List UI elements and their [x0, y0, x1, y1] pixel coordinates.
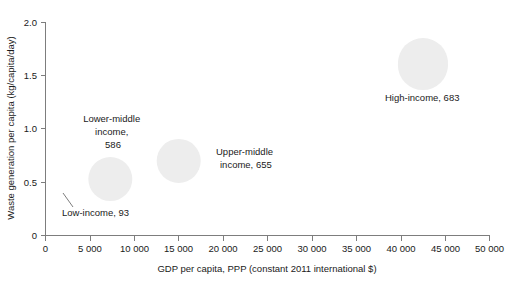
- label-high-income: High-income, 683: [385, 92, 459, 103]
- label-upper-middle-income: Upper-middle income, 655: [216, 146, 276, 170]
- x-axis-title: GDP per capita, PPP (constant 2011 inter…: [157, 263, 376, 274]
- label-high-income-line-1: High-income, 683: [385, 92, 459, 103]
- y-tick-label-1.5: 1.5: [24, 70, 37, 81]
- y-axis-ticks: [41, 23, 46, 236]
- label-lower-middle-income-line-1: Lower-middle: [83, 113, 140, 124]
- x-tick-label-25000: 25 000: [253, 243, 282, 254]
- x-tick-label-5000: 5 000: [78, 243, 102, 254]
- y-axis-tick-labels: 0 0.5 1.0 1.5 2.0: [24, 17, 37, 241]
- low-income-leader-line: [63, 193, 73, 207]
- bubble-high-income[interactable]: [398, 38, 448, 88]
- label-lower-middle-income-line-2: income,: [95, 126, 128, 137]
- label-upper-middle-income-line-2: income, 655: [220, 159, 272, 170]
- x-tick-label-15000: 15 000: [164, 243, 193, 254]
- label-low-income: Low-income, 93: [62, 207, 129, 218]
- bubble-low-income[interactable]: [88, 157, 132, 201]
- x-tick-label-0: 0: [43, 243, 48, 254]
- bubble-lower-middle-income[interactable]: [157, 139, 201, 183]
- y-tick-label-1.0: 1.0: [24, 123, 37, 134]
- y-axis: 0 0.5 1.0 1.5 2.0 Waste generation per c…: [5, 17, 46, 241]
- bubble-chart: 0 0.5 1.0 1.5 2.0 Waste generation per c…: [0, 0, 518, 285]
- label-low-income-line-1: Low-income, 93: [62, 207, 129, 218]
- label-upper-middle-income-line-1: Upper-middle: [216, 146, 273, 157]
- x-tick-label-30000: 30 000: [297, 243, 326, 254]
- x-tick-label-35000: 35 000: [342, 243, 371, 254]
- x-tick-label-10000: 10 000: [120, 243, 149, 254]
- y-tick-label-0.5: 0.5: [24, 177, 37, 188]
- chart-canvas: 0 0.5 1.0 1.5 2.0 Waste generation per c…: [0, 0, 518, 285]
- x-tick-label-50000: 50 000: [475, 243, 504, 254]
- x-tick-label-20000: 20 000: [208, 243, 237, 254]
- point-labels: Low-income, 93 Lower-middle income, 586 …: [62, 92, 459, 218]
- y-tick-label-0: 0: [32, 230, 37, 241]
- x-axis-tick-labels: 0 5 000 10 000 15 000 20 000 25 000 30 0…: [43, 243, 504, 254]
- x-tick-label-40000: 40 000: [386, 243, 415, 254]
- label-lower-middle-income: Lower-middle income, 586: [83, 113, 143, 150]
- x-axis: 0 5 000 10 000 15 000 20 000 25 000 30 0…: [43, 236, 504, 275]
- label-lower-middle-income-line-3: 586: [105, 139, 121, 150]
- y-tick-label-2.0: 2.0: [24, 17, 37, 28]
- y-axis-title: Waste generation per capita (kg/capita/d…: [5, 36, 16, 219]
- x-tick-label-45000: 45 000: [431, 243, 460, 254]
- x-axis-ticks: [46, 236, 490, 241]
